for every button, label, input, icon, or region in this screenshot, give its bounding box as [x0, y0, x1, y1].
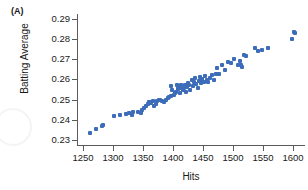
data-point [88, 131, 92, 135]
data-point [154, 102, 158, 106]
y-tick-label: 0.29 [41, 13, 70, 24]
y-tick-label: 0.24 [41, 114, 70, 125]
data-point [220, 63, 224, 67]
y-tick-label: 0.25 [41, 94, 70, 105]
y-tick-label: 0.27 [41, 53, 70, 64]
data-point [112, 114, 116, 118]
data-point [215, 66, 219, 70]
y-tick-label: 0.28 [41, 33, 70, 44]
x-axis-title: Hits [77, 171, 305, 182]
data-point [244, 54, 248, 58]
data-point [229, 61, 233, 65]
scatter-plot-figure: (A) Batting Average Hits 0.230.240.250.2… [0, 0, 308, 190]
data-point [131, 110, 135, 114]
data-point [184, 90, 188, 94]
data-point [188, 88, 192, 92]
x-tick-mark [293, 146, 294, 151]
y-tick-label: 0.26 [41, 73, 70, 84]
y-axis-title: Batting Average [19, 9, 30, 109]
data-point [223, 68, 227, 72]
data-point [260, 48, 264, 52]
data-point [266, 46, 270, 50]
x-tick-mark [233, 146, 234, 151]
x-tick-mark [83, 146, 84, 151]
data-point [94, 127, 98, 131]
data-point [240, 65, 244, 69]
data-point [232, 57, 236, 61]
x-tick-mark [143, 146, 144, 151]
x-axis-line [77, 145, 305, 146]
x-tick-mark [263, 146, 264, 151]
data-point [290, 37, 294, 41]
data-point [139, 111, 143, 115]
background-smudge [0, 108, 32, 146]
x-tick-mark [113, 146, 114, 151]
data-point [169, 84, 173, 88]
data-point [293, 31, 297, 35]
x-tick-mark [173, 146, 174, 151]
y-tick-label: 0.23 [41, 134, 70, 145]
x-tick-mark [203, 146, 204, 151]
x-tick-label: 1600 [273, 152, 308, 163]
data-point [206, 80, 210, 84]
data-point [196, 86, 200, 90]
plot-area [77, 14, 305, 145]
data-point [101, 123, 105, 127]
data-point [212, 78, 216, 82]
data-point [256, 49, 260, 53]
data-point [118, 113, 122, 117]
data-point [217, 72, 221, 76]
